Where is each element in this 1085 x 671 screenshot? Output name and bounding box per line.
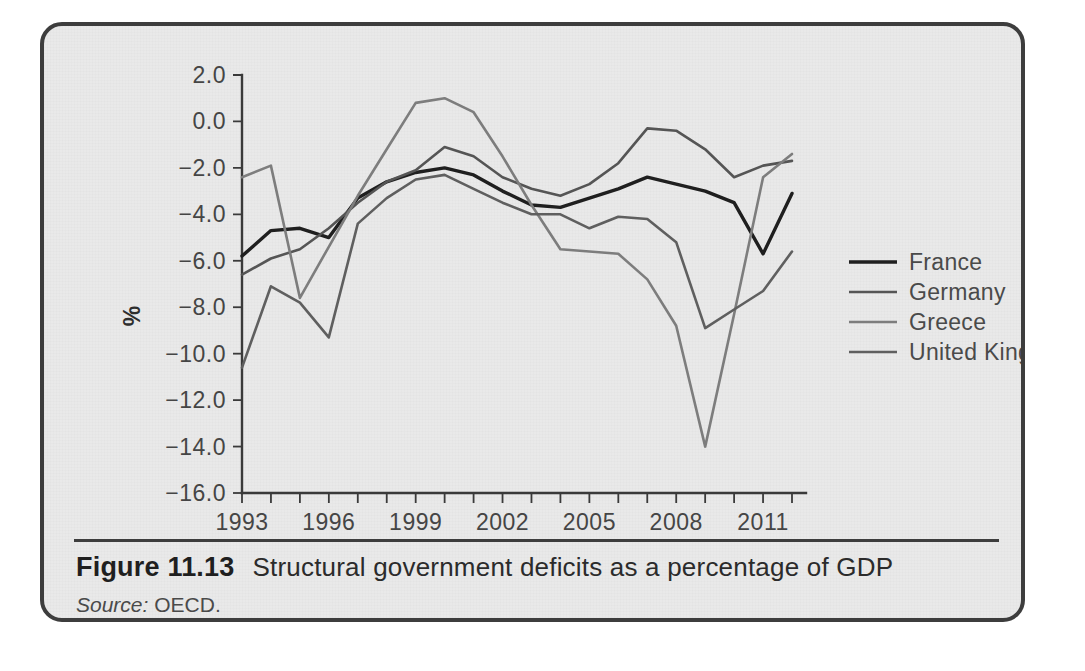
y-axis-tick-label: −14.0 (165, 434, 226, 460)
figure-number: Figure 11.13 (76, 552, 234, 583)
y-axis-tick-label: −6.0 (179, 248, 226, 274)
y-axis-tick-label: −2.0 (179, 155, 226, 181)
source-value: OECD. (148, 593, 220, 616)
series-line-united-kingdom (242, 175, 792, 368)
x-axis-tick-label: 2005 (563, 509, 616, 535)
line-chart: 2.00.0−2.0−4.0−6.0−8.0−10.0−12.0−14.0−16… (44, 26, 1025, 536)
legend-label-france: France (909, 249, 982, 275)
x-axis: 1993199619992002200520082011 (215, 493, 806, 535)
series-line-greece (242, 98, 792, 446)
legend-label-greece: Greece (909, 309, 986, 335)
y-axis-tick-label: −8.0 (179, 294, 226, 320)
figure-caption: Figure 11.13 Structural government defic… (76, 552, 1006, 617)
y-axis-tick-label: 0.0 (193, 108, 226, 134)
chart-plot-region: 2.00.0−2.0−4.0−6.0−8.0−10.0−12.0−14.0−16… (44, 26, 1025, 536)
figure-title: Structural government deficits as a perc… (252, 552, 893, 583)
chart-legend: FranceGermanyGreeceUnited Kingdom (849, 249, 1025, 365)
x-axis-tick-label: 2011 (737, 509, 788, 535)
x-axis-tick-label: 1999 (389, 509, 442, 535)
x-axis-tick-label: 2002 (476, 509, 529, 535)
x-axis-tick-label: 1996 (302, 509, 355, 535)
caption-divider (74, 539, 999, 542)
x-axis-tick-label: 1993 (215, 509, 268, 535)
y-axis-title: % (119, 306, 145, 326)
series-lines (242, 98, 792, 446)
y-axis-tick-label: 2.0 (193, 62, 226, 88)
y-axis-tick-label: −16.0 (165, 480, 226, 506)
legend-label-united-kingdom: United Kingdom (909, 339, 1025, 365)
figure-source: Source: OECD. (76, 593, 1006, 617)
source-label: Source: (76, 593, 148, 616)
caption-line: Figure 11.13 Structural government defic… (76, 552, 1006, 583)
figure-card: 2.00.0−2.0−4.0−6.0−8.0−10.0−12.0−14.0−16… (40, 22, 1025, 622)
y-axis-tick-label: −4.0 (179, 201, 226, 227)
y-axis: 2.00.0−2.0−4.0−6.0−8.0−10.0−12.0−14.0−16… (165, 62, 242, 506)
legend-label-germany: Germany (909, 279, 1006, 305)
x-axis-tick-label: 2008 (650, 509, 703, 535)
y-axis-tick-label: −10.0 (165, 341, 226, 367)
y-axis-tick-label: −12.0 (165, 387, 226, 413)
